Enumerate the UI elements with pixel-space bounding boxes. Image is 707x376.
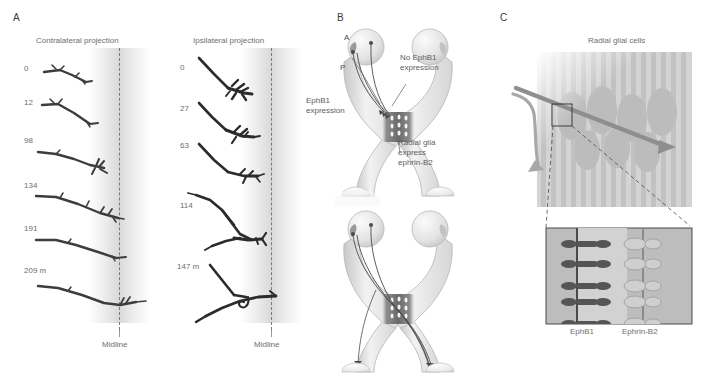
panelC-inset (546, 228, 692, 330)
ephrinb2-ligand (624, 258, 661, 270)
panelC-glial-field (537, 52, 692, 207)
ephb1-receptor (561, 260, 611, 268)
figure-root: A Contralateral projection Midline 0 12 … (0, 0, 707, 376)
ephrinb2-ligand (624, 280, 661, 292)
ephb1-receptor (561, 240, 611, 248)
ephb1-receptor (561, 282, 611, 290)
ephrinb2-ligand (624, 238, 661, 250)
panelC-glia-diagram (0, 0, 707, 376)
ephb1-receptor (561, 298, 611, 306)
panelC-inset-label-ephrinb2: Ephrin-B2 (622, 327, 658, 336)
panelC-inset-label-ephb1: EphB1 (570, 327, 594, 336)
ephrinb2-ligand (624, 296, 661, 308)
